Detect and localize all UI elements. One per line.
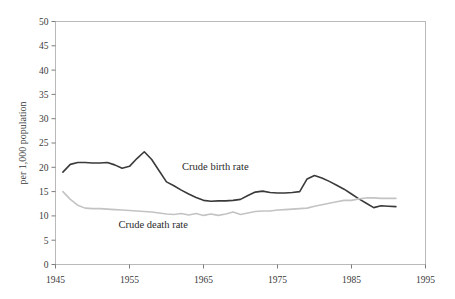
x-tick-label: 1955 (120, 275, 139, 285)
y-tick-label: 45 (39, 41, 49, 51)
chart-figure: 05101520253035404550 1945195519651975198… (0, 0, 455, 299)
series-label-crude-birth-rate: Crude birth rate (182, 161, 249, 172)
y-tick-label: 10 (39, 211, 49, 221)
y-axis-title: per 1,000 population (17, 101, 28, 184)
y-tick-label: 20 (39, 163, 49, 173)
y-tick-label: 15 (39, 187, 49, 197)
x-tick-label: 1975 (268, 275, 287, 285)
x-tick-label: 1995 (416, 275, 435, 285)
y-tick-label: 35 (39, 90, 49, 100)
chart-background (0, 0, 455, 299)
x-tick-label: 1945 (46, 275, 65, 285)
series-label-crude-death-rate: Crude death rate (118, 219, 188, 230)
y-tick-label: 25 (39, 138, 49, 148)
y-tick-label: 50 (39, 17, 49, 27)
y-tick-label: 40 (39, 66, 49, 76)
line-chart: 05101520253035404550 1945195519651975198… (0, 0, 455, 299)
y-tick-label: 30 (39, 114, 49, 124)
x-tick-label: 1985 (342, 275, 361, 285)
y-tick-label: 5 (44, 236, 49, 246)
y-tick-label: 0 (44, 260, 49, 270)
x-tick-label: 1965 (194, 275, 213, 285)
